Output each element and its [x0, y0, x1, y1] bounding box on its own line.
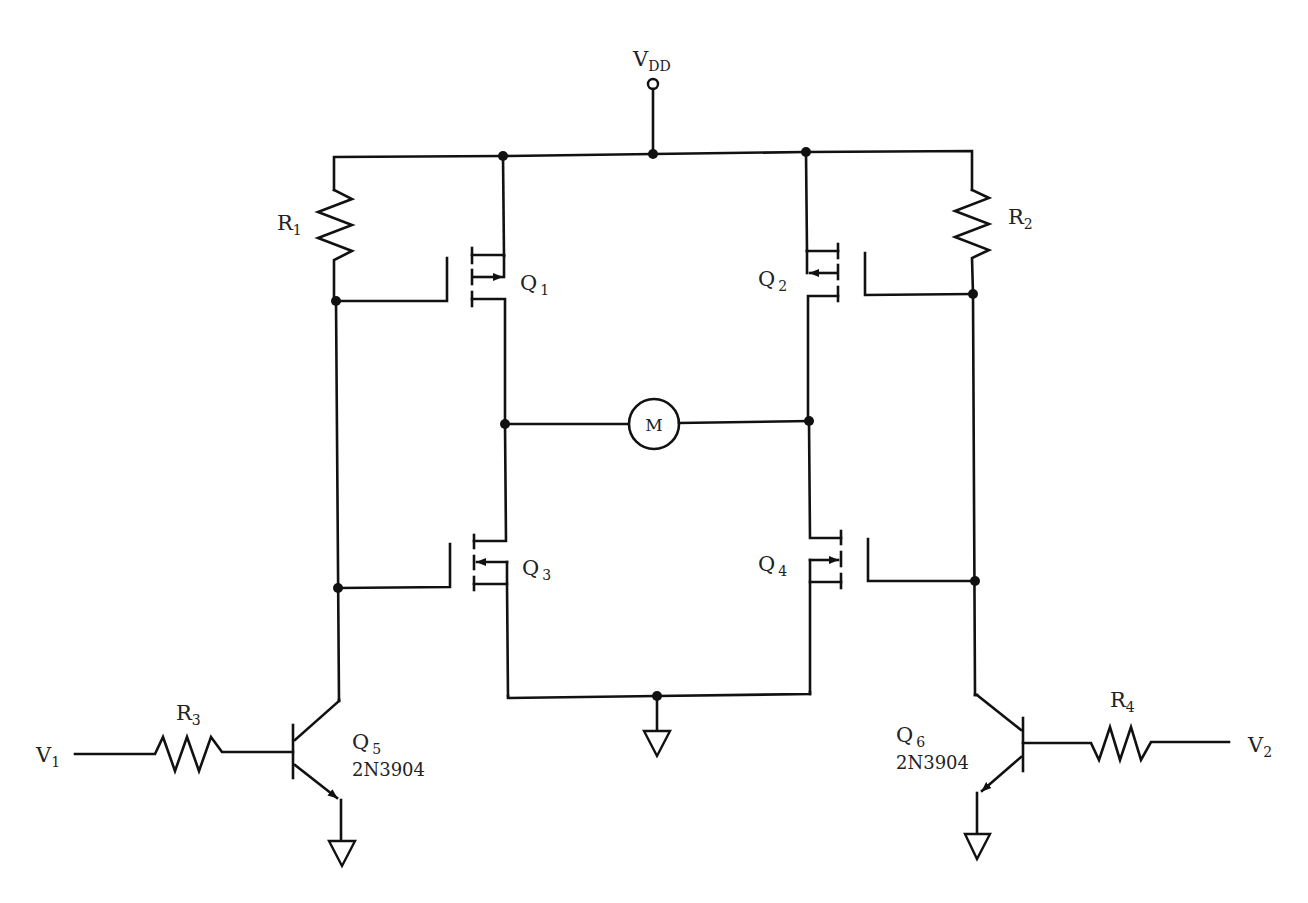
q1-label: Q1	[520, 271, 549, 298]
r1-label: R1	[277, 211, 302, 238]
bjt-q5: Q5 2N3904	[293, 700, 425, 866]
q6-part-number: 2N3904	[896, 752, 969, 773]
r4-label: R4	[1110, 688, 1135, 715]
resistor-r2: R2	[955, 190, 1033, 294]
resistor-r1: R1	[277, 190, 352, 300]
q4-label: Q4	[758, 552, 787, 579]
input-v2-label: V2	[1247, 733, 1272, 760]
left-gate-bus	[331, 258, 450, 700]
mosfet-q3: Q3	[474, 424, 551, 696]
circuit-schematic: VDD R1 R2	[0, 0, 1308, 903]
bottom-rail	[508, 691, 810, 756]
ground-icon	[329, 841, 355, 866]
motor-label: M	[645, 415, 662, 435]
mosfet-q4: Q4	[758, 421, 841, 694]
input-v1-label: V1	[35, 743, 60, 770]
top-rail	[334, 147, 972, 190]
resistor-r3: R3	[75, 701, 293, 771]
bjt-q6: Q6 2N3904	[896, 695, 1023, 859]
q5-part-number: 2N3904	[352, 759, 425, 780]
vdd-label: VDD	[632, 47, 671, 74]
r3-label: R3	[176, 701, 201, 728]
r2-label: R2	[1008, 205, 1033, 232]
motor-branch: M	[500, 399, 814, 449]
ground-icon	[965, 834, 990, 859]
q2-label: Q2	[758, 267, 787, 294]
q5-label: Q5	[352, 730, 381, 757]
mosfet-q1: Q1	[472, 156, 549, 424]
vdd-terminal: VDD	[632, 47, 671, 154]
q3-label: Q3	[522, 556, 551, 583]
resistor-r4: R4	[1023, 688, 1229, 760]
q6-label: Q6	[896, 723, 925, 750]
right-gate-bus	[865, 253, 980, 695]
ground-icon	[644, 731, 670, 756]
mosfet-q2: Q2	[758, 152, 838, 421]
